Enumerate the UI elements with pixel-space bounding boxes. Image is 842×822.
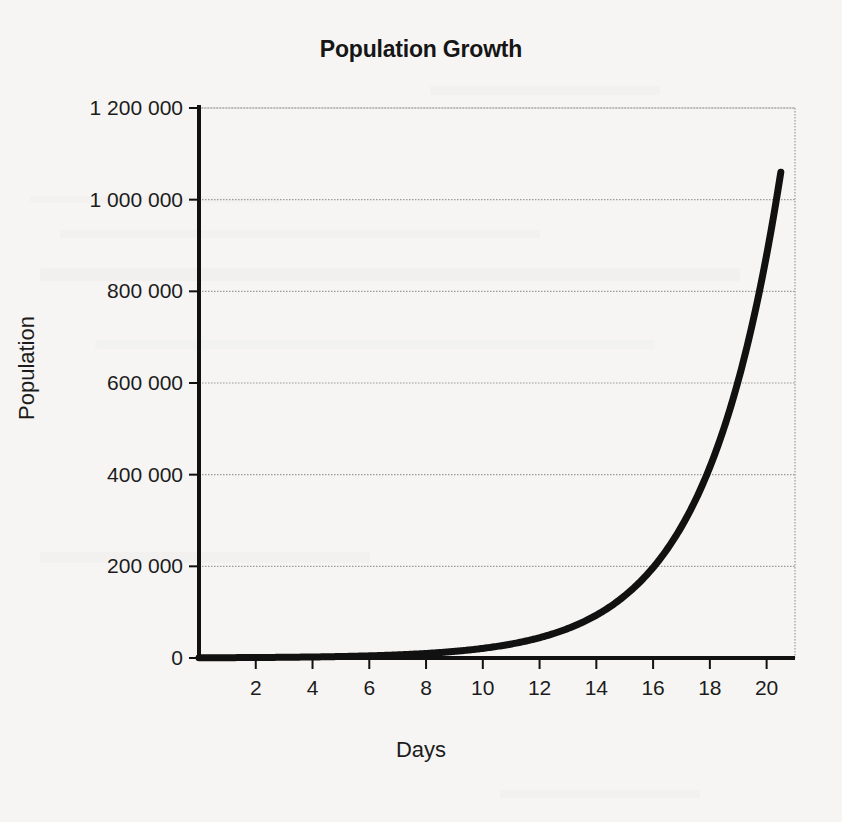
- y-tick-label: 600 000: [107, 371, 183, 395]
- x-axis-label: Days: [0, 737, 842, 763]
- x-tick-label: 12: [528, 676, 551, 700]
- y-tick-label: 800 000: [107, 279, 183, 303]
- x-tick-label: 20: [755, 676, 778, 700]
- y-tick-label: 400 000: [107, 463, 183, 487]
- x-tick-label: 6: [363, 676, 375, 700]
- y-tick-label: 200 000: [107, 554, 183, 578]
- population-curve: [199, 172, 781, 658]
- x-tick-label: 16: [641, 676, 664, 700]
- x-tick-label: 10: [471, 676, 494, 700]
- y-axis-label: Population: [14, 316, 40, 420]
- y-tick-label: 1 200 000: [90, 96, 183, 120]
- gridlines: [199, 108, 795, 566]
- x-tick-label: 8: [420, 676, 432, 700]
- y-tick-label: 1 000 000: [90, 188, 183, 212]
- x-tick-label: 18: [698, 676, 721, 700]
- y-tick-label: 0: [171, 646, 183, 670]
- x-tick-label: 2: [250, 676, 262, 700]
- x-tick-label: 14: [585, 676, 608, 700]
- chart-figure: Population Growth 0200 000400 000600 000…: [0, 0, 842, 822]
- x-tick-label: 4: [307, 676, 319, 700]
